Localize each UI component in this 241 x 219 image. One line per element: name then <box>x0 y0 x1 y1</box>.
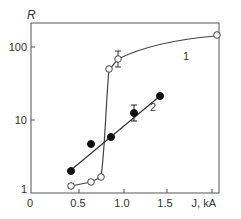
open-circle-marker <box>88 179 95 186</box>
open-circle-marker <box>115 56 122 63</box>
curve-1-line <box>71 36 215 186</box>
x-tick-label-0: 0 <box>27 197 33 209</box>
y-tick-label-1: 1 <box>21 183 27 195</box>
curve-2-line <box>71 96 160 170</box>
y-tick-label-100: 100 <box>9 41 27 53</box>
filled-circle-marker <box>88 141 95 148</box>
curve-1-label: 1 <box>183 50 189 62</box>
filled-circle-marker <box>157 93 164 100</box>
curve-2-label: 2 <box>150 101 156 113</box>
plot-frame <box>31 23 219 193</box>
open-circle-marker <box>106 66 113 73</box>
filled-circle-marker <box>68 168 75 175</box>
x-axis-title: J, kA <box>192 197 217 209</box>
open-circle-marker <box>68 183 75 190</box>
filled-circle-marker <box>131 110 138 117</box>
y-tick-label-10: 10 <box>15 114 27 126</box>
open-circle-marker <box>98 174 105 181</box>
x-tick-label-10: 1.0 <box>114 197 129 209</box>
curve-1-markers <box>68 32 221 190</box>
y-axis-title: R <box>27 8 36 22</box>
open-circle-marker <box>214 32 221 39</box>
chart: R 100 10 1 0 0.5 1.0 1.5 J, kA 1 2 <box>0 0 241 219</box>
filled-circle-marker <box>108 134 115 141</box>
x-tick-label-05: 0.5 <box>70 197 85 209</box>
x-tick-label-15: 1.5 <box>157 197 172 209</box>
